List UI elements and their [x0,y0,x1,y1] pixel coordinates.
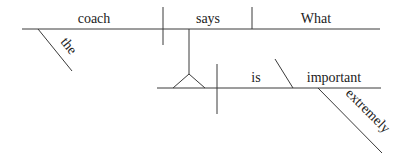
clause-pedestal [173,74,205,88]
complement-slash [275,59,293,88]
word-subject: coach [78,11,111,26]
word-verb: says [196,11,220,26]
word-subject-modifier: the [58,34,80,57]
sentence-diagram: coach says What the is important extreme… [0,0,401,164]
word-complement-modifier: extremely [343,86,393,136]
word-clause-complement: important [307,70,362,85]
word-object: What [301,11,331,26]
word-clause-verb: is [251,70,260,85]
